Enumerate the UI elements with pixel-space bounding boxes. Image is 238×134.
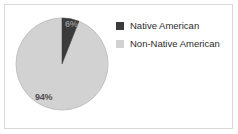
pie-svg [14, 16, 110, 112]
pie-chart-screenshot: 6% 94% Native American Non-Native Americ… [0, 0, 238, 134]
chart-legend: Native American Non-Native American [116, 17, 228, 53]
chart-plot-area: 6% 94% Native American Non-Native Americ… [5, 5, 234, 130]
legend-item-native-american: Native American [116, 17, 228, 34]
legend-item-non-native-american: Non-Native American [116, 35, 228, 52]
pie-label-native-american: 6% [65, 19, 78, 29]
legend-swatch-native-american [116, 22, 124, 30]
legend-swatch-non-native-american [116, 40, 124, 48]
chart-frame: 6% 94% Native American Non-Native Americ… [4, 4, 233, 129]
pie-chart-graphic: 6% 94% [14, 16, 110, 112]
legend-label-native-american: Native American [130, 20, 199, 31]
legend-label-non-native-american: Non-Native American [130, 38, 220, 49]
pie-label-non-native-american: 94% [35, 92, 52, 102]
